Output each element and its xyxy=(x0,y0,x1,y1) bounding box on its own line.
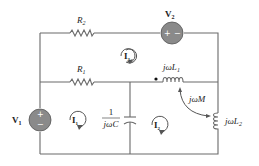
r1-label: R1 xyxy=(76,64,86,75)
voltage-source-v2: + − V2 xyxy=(161,9,183,44)
svg-text:−: − xyxy=(174,29,181,38)
mesh-current-i2: I2 xyxy=(152,116,168,135)
svg-text:−: − xyxy=(37,120,44,129)
resistor-r1: R1 xyxy=(70,64,94,85)
v2-label: V2 xyxy=(165,9,175,20)
capacitor: 1 jωC xyxy=(102,107,136,129)
l1-label: jωL1 xyxy=(162,62,180,73)
svg-text:jωC: jωC xyxy=(103,119,120,129)
l2-label: jωL2 xyxy=(224,116,242,127)
v1-label: V1 xyxy=(12,115,22,126)
inductor-l1: jωL1 xyxy=(154,62,183,82)
svg-text:1: 1 xyxy=(109,107,114,117)
svg-text:jωM: jωM xyxy=(188,94,206,104)
i2-label: I2 xyxy=(154,120,161,131)
i1-label: I1 xyxy=(72,115,79,126)
r2-label: R2 xyxy=(76,15,86,26)
resistor-r2: R2 xyxy=(70,15,94,36)
mesh-current-i1: I1 xyxy=(70,111,86,130)
inductor-l2: jωL2 xyxy=(214,113,242,132)
mutual-inductance-arrow: jωM xyxy=(178,87,211,118)
mesh-current-i3: I3 xyxy=(121,49,137,64)
svg-text:+: + xyxy=(37,110,44,119)
i3-label: I3 xyxy=(124,51,131,62)
circuit-diagram: R2 R1 + − V2 + − V1 1 jωC jωL1 jωL2 xyxy=(0,0,259,166)
svg-text:+: + xyxy=(164,29,171,38)
voltage-source-v1: + − V1 xyxy=(12,109,51,131)
